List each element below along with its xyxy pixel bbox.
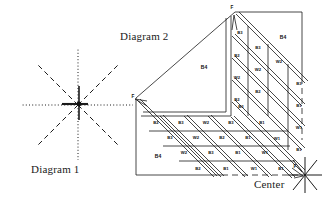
cell-row0-c1: B3 (178, 120, 184, 125)
cell-rightcol-0: B3 (296, 81, 302, 86)
cell-row0-c2: W2 (203, 120, 210, 125)
cell-row1-c1: W2 (193, 135, 200, 140)
cell-arm-r1c0: B2 (234, 53, 240, 58)
cell-rightcol-1: B1 (296, 103, 302, 108)
center-label: Center (254, 178, 285, 190)
cell-arm-r0c0: B3 (237, 30, 243, 35)
cell-row2-c2: B1 (235, 150, 241, 155)
cell-row3-c3: B1 (278, 166, 284, 171)
cell-row3-c1: B1 (223, 166, 229, 171)
cell-row1-c2: B2 (219, 135, 225, 140)
cell-region-upper-right: B4 (280, 34, 287, 40)
cell-row1-c4: B1 (259, 120, 265, 125)
cell-arm-r2c0: W2 (234, 75, 241, 80)
cell-row0-c3: B3 (228, 120, 234, 125)
cell-row2-c3: W1 (262, 150, 269, 155)
left-marker-label: F (132, 94, 135, 99)
apex-marker-label: F (231, 5, 234, 10)
cell-row0-c0: B2 (153, 120, 159, 125)
cell-row1-c0: B3 (167, 135, 173, 140)
outline-apex-to-left (136, 12, 235, 98)
cell-row1-c3: B1 (245, 135, 251, 140)
cell-rightcol-3: B1 (296, 147, 302, 152)
cell-region-lower-left: B4 (155, 153, 162, 159)
cell-row2-c1: B3 (208, 150, 214, 155)
center-arrow (292, 168, 303, 178)
cell-arm-w2-right: W2 (276, 59, 283, 64)
apex-arrow (232, 15, 237, 30)
diagram2-caption: Diagram 2 (120, 30, 169, 42)
cell-region-upper-left: B4 (201, 64, 208, 70)
cell-arm-r3c0: B2 (234, 97, 240, 102)
figure-canvas: B4 B4 B4 B3 B2 B3 W2 W2 B2 B2 W2 B3 B1 W… (0, 0, 325, 198)
cell-row0-c4: B3 (238, 104, 244, 109)
cell-row3-c2: W1 (251, 166, 258, 171)
cell-rightcol-2: W1 (296, 125, 303, 130)
diagram1-caption: Diagram 1 (31, 163, 80, 175)
cell-row2-c4: W1 (274, 136, 281, 141)
center-marker-label: F (294, 164, 297, 169)
cell-arm-r2c1: W2 (255, 67, 262, 72)
cell-arm-r1c1: B3 (255, 45, 261, 50)
cell-row2-c0: W2 (181, 150, 188, 155)
cell-row3-c0: B2 (195, 166, 201, 171)
wing-diagonals-B (137, 99, 295, 178)
cell-arm-r3c1: B2 (255, 89, 261, 94)
center-star (288, 157, 322, 193)
